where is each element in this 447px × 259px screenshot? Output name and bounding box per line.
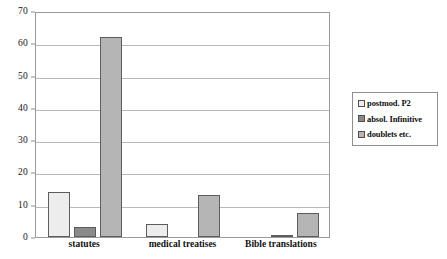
y-axis-tick-label: 50 (18, 72, 28, 82)
legend-label: doublets etc. (367, 130, 411, 139)
bar (146, 224, 168, 237)
legend-item[interactable]: postmod. P2 (358, 99, 433, 108)
bar-group (233, 13, 331, 237)
y-axis-tick-label: 30 (18, 136, 28, 146)
bar-group (36, 13, 134, 237)
bar (297, 213, 319, 237)
legend-swatch-icon (358, 100, 365, 107)
y-axis-tick-label: 40 (18, 104, 28, 114)
legend-label: postmod. P2 (367, 99, 411, 108)
bar-chart-figure: 010203040506070 statutesmedical treatise… (0, 0, 447, 259)
x-axis-category-label: Bible translations (245, 240, 317, 250)
bar (198, 195, 220, 237)
legend-item[interactable]: doublets etc. (358, 130, 433, 139)
legend-label: absol. Infinitive (367, 115, 422, 124)
x-axis-category-label: statutes (69, 240, 100, 250)
bar (271, 235, 293, 237)
y-axis-tick-label: 60 (18, 40, 28, 50)
x-axis: statutesmedical treatisesBible translati… (35, 240, 330, 258)
bar (100, 37, 122, 237)
bar-group (134, 13, 232, 237)
bars-layer (36, 13, 329, 237)
x-axis-category-label: medical treatises (149, 240, 217, 250)
y-axis-tick-label: 10 (18, 201, 28, 211)
y-axis: 010203040506070 (0, 12, 35, 238)
y-axis-tick-label: 20 (18, 169, 28, 179)
bar (74, 227, 96, 237)
legend-item[interactable]: absol. Infinitive (358, 115, 433, 124)
chart-legend: postmod. P2absol. Infinitivedoublets etc… (352, 92, 438, 146)
plot-area (35, 12, 330, 238)
y-axis-tick-label: 70 (18, 7, 28, 17)
y-axis-tick-label: 0 (23, 233, 28, 243)
legend-swatch-icon (358, 131, 365, 138)
bar (48, 192, 70, 237)
legend-swatch-icon (358, 115, 365, 122)
